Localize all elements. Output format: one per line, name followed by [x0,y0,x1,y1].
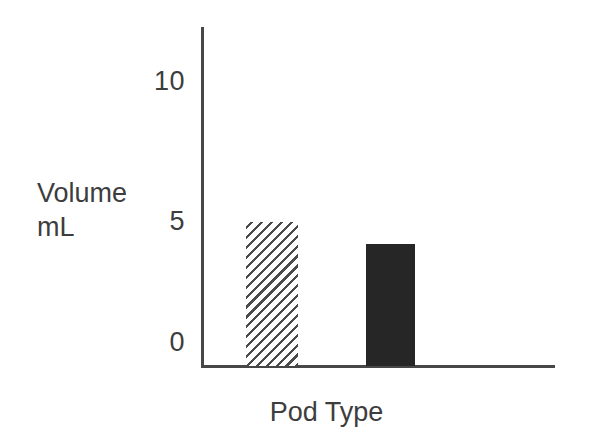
bar-hatched-pod [246,222,298,366]
bar-solid-pod [366,244,415,366]
bar-chart-figure: 10 5 0 Volume mL Pod Type [0,0,601,442]
plot-area [0,0,601,366]
x-axis-title-text: Pod Type [270,399,384,426]
x-axis-title: Pod Type [0,399,601,426]
